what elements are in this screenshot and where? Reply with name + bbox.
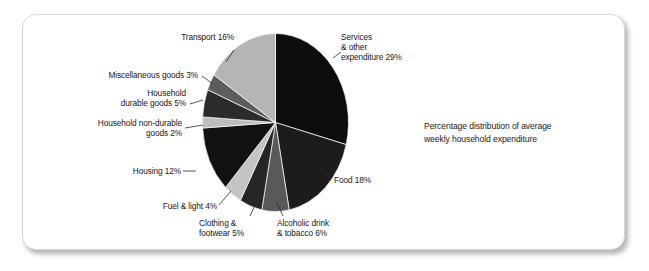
leader-line-household-non-durable [185, 125, 203, 128]
pie-label-fuel-light: Fuel & light 4% [125, 201, 217, 211]
pie-label-alcoholic-drink: Alcoholic drink & tobacco 6% [277, 218, 367, 238]
chart-caption: Percentage distribution of average weekl… [424, 120, 604, 145]
pie-chart-area: Services & other expenditure 29% Food 18… [0, 0, 649, 271]
pie-label-services: Services & other expenditure 29% [341, 32, 461, 63]
leader-line-household-durable [190, 100, 203, 104]
pie-label-food: Food 18% [334, 175, 404, 185]
figure-page: Services & other expenditure 29% Food 18… [0, 0, 649, 271]
leader-line-services [333, 52, 341, 58]
pie-label-transport: Transport 16% [140, 32, 234, 42]
pie-label-household-non-durable: Household non-durable goods 2% [50, 118, 182, 138]
pie-label-housing: Housing 12% [105, 166, 181, 176]
pie-label-clothing-footwear: Clothing & footwear 5% [199, 218, 269, 238]
pie-label-miscellaneous: Miscellaneous goods 3% [60, 70, 198, 80]
leader-line-fuel-light [219, 191, 231, 205]
pie-label-household-durable: Household durable goods 5% [62, 88, 186, 108]
pie-slice-group [202, 33, 348, 211]
